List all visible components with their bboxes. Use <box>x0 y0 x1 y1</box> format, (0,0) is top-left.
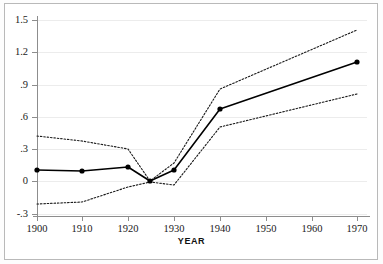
y-tick-label-5: .3 <box>2 143 28 154</box>
x-tick-label-1900: 1900 <box>17 223 57 234</box>
data-point <box>79 168 84 173</box>
x-tick-label-1950: 1950 <box>246 223 286 234</box>
y-tick-label-3: .9 <box>2 79 28 90</box>
x-tick-label-1920: 1920 <box>108 223 148 234</box>
data-point <box>171 167 176 172</box>
data-point <box>147 178 152 183</box>
data-point <box>125 164 130 169</box>
x-tick-label-1960: 1960 <box>292 223 332 234</box>
x-tick-label-1930: 1930 <box>154 223 194 234</box>
data-point <box>34 167 39 172</box>
x-tick-label-1910: 1910 <box>62 223 102 234</box>
estimate-line <box>37 62 357 181</box>
chart-figure: 1.5 1.2 .9 .6 .3 0 -.3 1900 1910 1920 19… <box>0 0 383 264</box>
y-tick-label-1: 1.5 <box>2 14 28 25</box>
y-tick-label-4: .6 <box>2 111 28 122</box>
x-tick-label-1940: 1940 <box>200 223 240 234</box>
x-axis-ticks <box>37 216 357 221</box>
data-point <box>354 59 359 64</box>
y-tick-label-7: -.3 <box>2 208 28 219</box>
y-axis-ticks <box>32 20 37 214</box>
x-axis-title: YEAR <box>0 236 383 246</box>
data-point <box>217 106 222 111</box>
y-tick-label-2: 1.2 <box>2 46 28 57</box>
y-tick-label-6: 0 <box>2 175 28 186</box>
x-tick-label-1970: 1970 <box>337 223 377 234</box>
